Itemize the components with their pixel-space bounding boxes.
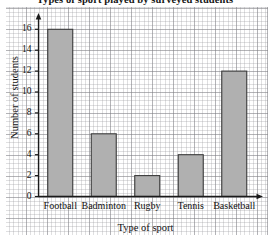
- bars-group: [48, 29, 247, 196]
- y-tick-label-8: 8: [10, 108, 32, 118]
- y-tick-label-16: 16: [10, 24, 32, 34]
- x-category-label-basketball: Basketball: [209, 200, 261, 211]
- y-tick-label-0: 0: [10, 192, 32, 202]
- y-tick-label-6: 6: [10, 129, 32, 139]
- x-axis-arrow-icon: [257, 194, 264, 200]
- bar-badminton: [91, 134, 116, 197]
- bar-basketball: [222, 71, 247, 196]
- bar-tennis: [178, 155, 203, 197]
- y-axis-arrow-icon: [36, 13, 42, 20]
- y-tick-label-14: 14: [10, 45, 32, 55]
- y-tick-label-4: 4: [10, 150, 32, 160]
- bar-rugby: [135, 176, 160, 197]
- y-tick-label-2: 2: [10, 171, 32, 181]
- y-tick-label-10: 10: [10, 87, 32, 97]
- y-tick-label-12: 12: [10, 66, 32, 76]
- bar-chart-figure: Types of sport played by surveyed studen…: [0, 0, 270, 242]
- bar-football: [48, 29, 73, 196]
